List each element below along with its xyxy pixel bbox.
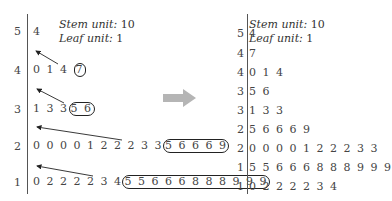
stem: 3 <box>237 85 249 98</box>
leaves: 5 6 <box>249 85 271 98</box>
leaf-unit-value: 1 <box>306 32 313 45</box>
split-row: 25 6 6 6 9 <box>237 123 311 136</box>
arrow-1-to-2 <box>37 166 93 176</box>
arrow-3-to-4 <box>37 89 64 103</box>
stem: 1 <box>237 161 249 174</box>
leaves: 0 0 0 0 1 2 2 2 3 3 <box>249 142 379 155</box>
split-row: 15 5 6 6 6 8 8 8 9 9 9 <box>237 161 392 174</box>
stem-unit-value: 10 <box>311 18 325 31</box>
leaves: 5 6 6 6 9 <box>249 123 311 136</box>
leaves: 7 <box>249 47 258 60</box>
split-row: 35 6 <box>237 85 271 98</box>
transform-arrow-icon <box>163 89 197 107</box>
stem: 5 <box>237 27 249 40</box>
split-row: 20 0 0 0 1 2 2 2 3 3 <box>237 142 379 155</box>
stem: 2 <box>237 123 249 136</box>
right-units-legend: Stem unit: 10 Leaf unit: 1 <box>249 18 325 46</box>
leaves: 0 1 4 <box>249 66 285 79</box>
leaves: 4 <box>249 27 258 40</box>
split-row: 10 2 2 2 2 3 4 <box>237 180 338 193</box>
stem: 4 <box>237 66 249 79</box>
stem-unit-label: Stem unit: <box>249 18 307 31</box>
stem: 2 <box>237 142 249 155</box>
leaves: 0 2 2 2 2 3 4 <box>249 180 338 193</box>
stem: 1 <box>237 180 249 193</box>
split-row: 31 3 3 <box>237 104 285 117</box>
arrow-2-to-3 <box>37 127 122 140</box>
stem: 3 <box>237 104 249 117</box>
split-row: 54 <box>237 27 258 40</box>
arrow-4-to-5 <box>36 51 58 64</box>
split-row: 40 1 4 <box>237 66 285 79</box>
leaves: 1 3 3 <box>249 104 285 117</box>
split-row: 47 <box>237 47 258 60</box>
stem: 4 <box>237 47 249 60</box>
leaves: 5 5 6 6 6 8 8 8 9 9 9 <box>249 161 392 174</box>
